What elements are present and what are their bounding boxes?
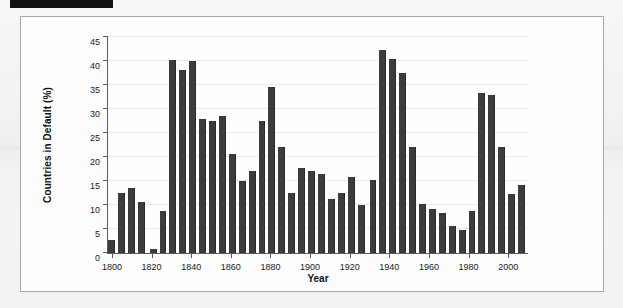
bar (419, 204, 426, 253)
plot-area: 051015202530354045 180018201840186018801… (108, 37, 528, 253)
bar (439, 213, 446, 253)
x-axis-tick-label: 1900 (300, 262, 320, 272)
x-axis-tick (508, 253, 509, 258)
x-axis-title: Year (307, 273, 328, 284)
bar (318, 174, 325, 253)
bar (288, 193, 295, 253)
bar (298, 168, 305, 253)
bar (429, 209, 436, 253)
x-axis-tick-label: 1800 (102, 262, 122, 272)
y-axis-title: Countries in Default (%) (42, 87, 53, 203)
x-axis-tick (310, 253, 311, 258)
bar (348, 177, 355, 253)
bar (199, 119, 206, 253)
y-axis-tick (103, 60, 108, 61)
x-axis-tick-label: 1860 (221, 262, 241, 272)
x-axis-line (107, 253, 528, 254)
y-axis-tick (103, 252, 108, 253)
bar (409, 147, 416, 253)
x-axis-tick-label: 1880 (260, 262, 280, 272)
bar (118, 193, 125, 253)
x-axis-tick (469, 253, 470, 258)
bar (229, 154, 236, 253)
y-axis-tick (103, 84, 108, 85)
y-axis-tick (103, 108, 108, 109)
bar (399, 73, 406, 253)
bar (459, 230, 466, 253)
x-axis-tick-label: 2000 (498, 262, 518, 272)
x-axis-tick (350, 253, 351, 258)
bar (259, 121, 266, 253)
x-axis-tick-label: 1840 (181, 262, 201, 272)
bar (128, 188, 135, 253)
bar (138, 202, 145, 253)
y-axis-tick (103, 204, 108, 205)
x-axis-tick (429, 253, 430, 258)
bar (278, 147, 285, 253)
x-axis-tick (231, 253, 232, 258)
bar (308, 171, 315, 253)
y-axis-tick (103, 36, 108, 37)
x-axis-tick (270, 253, 271, 258)
bar (249, 171, 256, 253)
x-axis-tick-label: 1920 (340, 262, 360, 272)
bar-chart: Countries in Default (%) Year 0510152025… (21, 17, 605, 293)
bar (488, 95, 495, 253)
x-axis-tick-label: 1940 (379, 262, 399, 272)
x-axis-tick-label: 1960 (419, 262, 439, 272)
y-axis-line (107, 37, 108, 253)
bar (239, 181, 246, 253)
bar (370, 180, 377, 253)
y-axis-tick (103, 228, 108, 229)
y-axis-tick (103, 156, 108, 157)
bar (268, 87, 275, 253)
y-axis-tick (103, 180, 108, 181)
figure-frame: Countries in Default (%) Year 0510152025… (20, 16, 604, 292)
x-axis-tick (389, 253, 390, 258)
y-axis-tick (103, 132, 108, 133)
x-axis-tick-label: 1980 (459, 262, 479, 272)
bar (179, 70, 186, 253)
bar (498, 147, 505, 253)
bar (108, 240, 115, 253)
bar (169, 60, 176, 253)
bar (219, 116, 226, 253)
bar (379, 50, 386, 253)
bar (508, 194, 515, 253)
bar (389, 59, 396, 253)
gridline (108, 36, 528, 37)
bar (478, 93, 485, 253)
bar (469, 211, 476, 253)
bar (328, 199, 335, 253)
x-axis-tick-label: 1820 (142, 262, 162, 272)
bar (160, 211, 167, 253)
bar (189, 61, 196, 253)
bar (358, 205, 365, 253)
x-axis-tick (112, 253, 113, 258)
bar (209, 121, 216, 253)
bar (338, 193, 345, 253)
x-axis-tick (191, 253, 192, 258)
redaction-bar (10, 0, 113, 8)
bar (518, 185, 525, 253)
x-axis-tick (152, 253, 153, 258)
bar (449, 226, 456, 253)
